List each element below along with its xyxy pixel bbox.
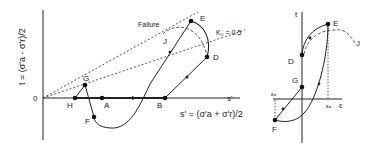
strain-left-label: εₐ xyxy=(271,91,277,97)
point-f-right xyxy=(273,118,278,123)
t-label-right: t xyxy=(295,10,298,19)
k0-line xyxy=(43,30,245,98)
point-f xyxy=(92,115,97,120)
point-d-right xyxy=(300,53,305,58)
right-plot: t ε D E G F J εₐ εₐ xyxy=(271,10,360,143)
strain-right-label: εₐ xyxy=(326,103,332,109)
arrow-dot xyxy=(186,76,189,79)
point-a xyxy=(100,96,105,101)
arrow-dot xyxy=(318,83,321,86)
label-f-right: F xyxy=(272,125,277,134)
label-e: E xyxy=(200,14,205,23)
path-d-e-right xyxy=(302,24,328,55)
label-j-right: J xyxy=(356,39,360,48)
label-h: H xyxy=(67,101,73,110)
arrow-dot xyxy=(282,108,285,111)
failure-line xyxy=(43,12,198,98)
point-b xyxy=(163,96,168,101)
arrow-dot xyxy=(309,37,312,40)
left-plot: t = (σ'a - σ'r)/2 0 H A B D E F G J Fail… xyxy=(17,10,245,140)
label-d: D xyxy=(213,53,219,62)
point-e-right xyxy=(326,22,331,27)
point-g xyxy=(83,83,88,88)
label-g-right: G xyxy=(292,76,298,85)
path-g-h xyxy=(75,85,85,98)
label-b: B xyxy=(157,101,162,110)
arrow-icon xyxy=(132,96,137,100)
point-e xyxy=(189,19,194,24)
origin-label: 0 xyxy=(33,94,38,103)
label-e-right: E xyxy=(333,19,338,28)
stress-path-diagram: t = (σ'a - σ'r)/2 0 H A B D E F G J Fail… xyxy=(0,0,380,150)
point-d xyxy=(205,55,210,60)
label-a: A xyxy=(104,101,110,110)
label-d-right: D xyxy=(288,57,294,66)
x-axis-label: s' = (σ'a + σ'r)/2 xyxy=(180,109,243,119)
label-g: G xyxy=(83,74,89,83)
label-f: F xyxy=(85,117,90,126)
path-e-f xyxy=(94,21,191,128)
point-g-right xyxy=(300,85,305,90)
s-axis-short: s' xyxy=(227,94,233,103)
y-axis-label: t = (σ'a - σ'r)/2 xyxy=(17,28,27,85)
k0-label: K₀ = 0.5 xyxy=(216,29,241,36)
path-f-g-right xyxy=(275,87,302,120)
path-f-g xyxy=(85,85,94,117)
failure-label: Failure xyxy=(138,21,160,28)
eps-label: ε xyxy=(339,101,343,110)
label-j: J xyxy=(163,37,167,46)
arrow-dot xyxy=(169,51,172,54)
point-h xyxy=(73,96,78,101)
